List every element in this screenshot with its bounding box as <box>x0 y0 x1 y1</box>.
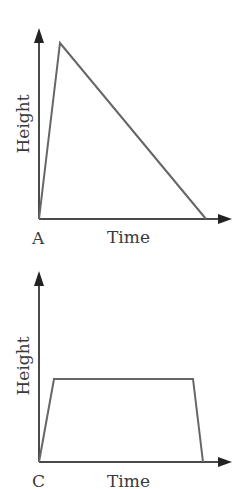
chart-c-plot <box>0 245 249 489</box>
x-axis-label: Time <box>107 473 150 489</box>
x-axis-arrow-icon <box>218 457 232 467</box>
chart-a: A Time Height <box>0 0 249 245</box>
y-axis-arrow-icon <box>34 28 44 43</box>
x-axis-arrow-icon <box>218 214 232 224</box>
height-curve <box>39 379 203 462</box>
y-axis-arrow-icon <box>34 271 44 286</box>
corner-label: C <box>32 473 45 489</box>
x-axis-label: Time <box>107 229 150 246</box>
y-axis-label: Height <box>15 338 32 396</box>
chart-c: C Time Height <box>0 245 249 489</box>
height-curve <box>39 43 206 219</box>
chart-a-plot <box>0 0 249 245</box>
y-axis-label: Height <box>15 96 32 154</box>
